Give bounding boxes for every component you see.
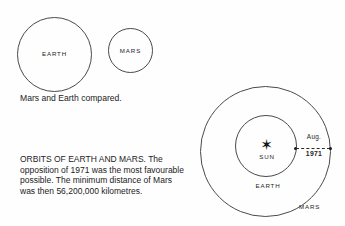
earth-orbit-label: EARTH: [240, 182, 296, 189]
sun-starburst-icon: ✶: [259, 138, 274, 153]
opposition-month-label: Aug.: [298, 133, 330, 140]
size-comparison-caption: Mars and Earth compared.: [20, 93, 122, 104]
earth-size-circle-label: EARTH: [17, 50, 92, 57]
marker-dashed-line: [296, 148, 330, 149]
figure-page: EARTH MARS Mars and Earth compared. ORBI…: [0, 0, 345, 226]
mars-orbit-label: MARS: [299, 203, 339, 210]
mars-size-circle-label: MARS: [108, 47, 153, 54]
opposition-year-label: 1971: [298, 150, 330, 157]
orbits-description-paragraph: ORBITS OF EARTH AND MARS. The opposition…: [20, 154, 184, 196]
sun-label: SUN: [249, 153, 285, 160]
